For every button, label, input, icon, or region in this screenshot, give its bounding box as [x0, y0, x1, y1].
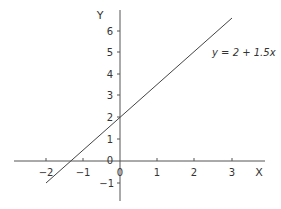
y-tick-label: −1: [99, 178, 114, 189]
data-line-y-equals-2-plus-1.5x: [46, 18, 232, 183]
y-tick-label: 6: [107, 26, 113, 37]
chart-canvas: −2 −1 0 1 2 3 6 5 4 3 2 1 0 −1 Y X y = 2…: [0, 0, 281, 209]
x-tick-label: 0: [117, 167, 123, 178]
y-tick-label: 2: [107, 112, 113, 123]
x-tick-label: 1: [154, 167, 160, 178]
y-axis-label: Y: [96, 9, 104, 22]
x-axis-label: X: [255, 166, 263, 179]
y-tick-label: 5: [107, 47, 113, 58]
x-tick-label: −2: [39, 167, 54, 178]
y-tick-label: 4: [107, 69, 113, 80]
equation-label: y = 2 + 1.5x: [211, 47, 276, 58]
y-tick-label: 1: [107, 134, 113, 145]
y-tick-label: 3: [107, 90, 113, 101]
x-tick-label: 3: [229, 167, 235, 178]
y-tick-label: 0: [107, 155, 113, 166]
x-tick-label: −1: [76, 167, 91, 178]
x-tick-label: 2: [191, 167, 197, 178]
